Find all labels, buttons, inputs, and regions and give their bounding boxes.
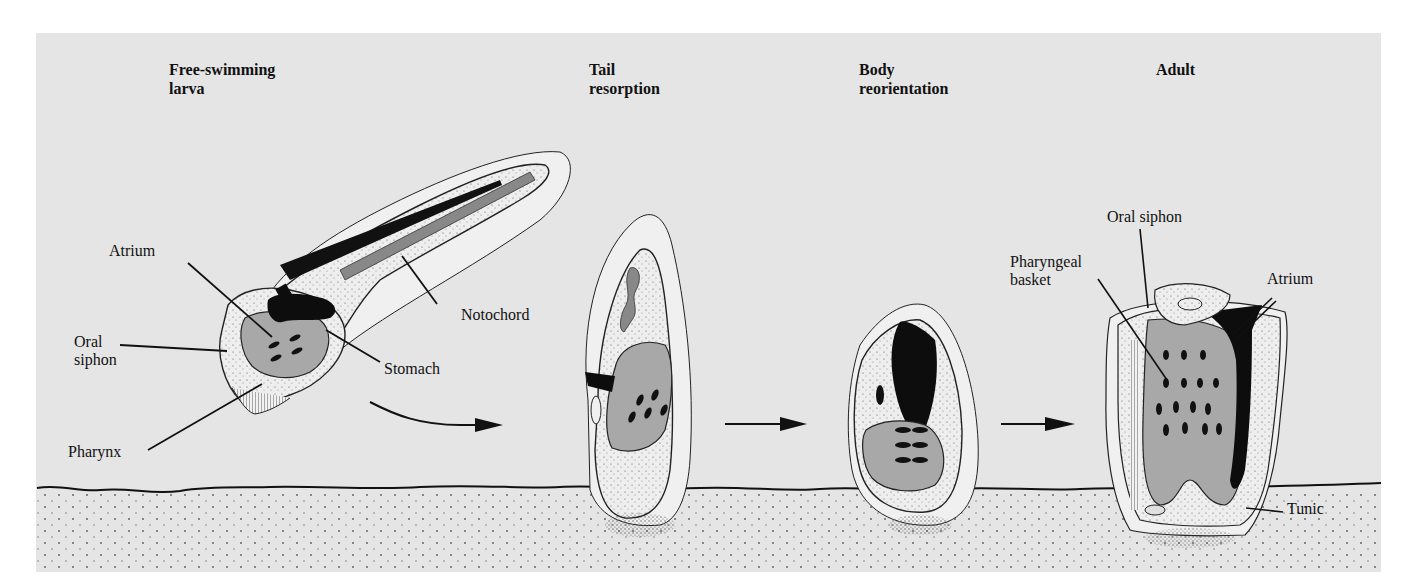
stage-title-line: Body xyxy=(859,60,948,79)
stage-title-line: reorientation xyxy=(859,79,948,98)
stage-title-larva: Free-swimming larva xyxy=(169,60,275,98)
arrow-3 xyxy=(1001,417,1075,431)
label-line: Pharyngeal xyxy=(1010,253,1082,271)
stage-title-adult: Adult xyxy=(1156,60,1195,79)
arrow-1 xyxy=(370,402,503,432)
tail-resorption-drawing xyxy=(585,215,691,537)
label-line: Oral xyxy=(74,333,117,351)
label-pharyngeal-basket: Pharyngeal basket xyxy=(1010,253,1082,289)
label-pharynx: Pharynx xyxy=(68,443,121,461)
adult-drawing xyxy=(1106,284,1287,548)
label-atrium-larva: Atrium xyxy=(109,242,155,260)
label-line: siphon xyxy=(74,351,117,369)
stage-title-line: Free-swimming xyxy=(169,60,275,79)
label-atrium-adult: Atrium xyxy=(1267,270,1313,288)
label-line: basket xyxy=(1010,271,1082,289)
stage-title-tail-resorption: Tail resorption xyxy=(589,60,660,98)
label-tunic: Tunic xyxy=(1287,500,1324,518)
body-reorientation-drawing xyxy=(848,304,978,535)
label-notochord: Notochord xyxy=(461,306,529,324)
label-stomach: Stomach xyxy=(384,360,440,378)
stage-title-line: resorption xyxy=(589,79,660,98)
label-oral-siphon-adult: Oral siphon xyxy=(1107,208,1182,226)
stage-title-line: Adult xyxy=(1156,60,1195,79)
stage-title-body-reorientation: Body reorientation xyxy=(859,60,948,98)
stage-title-line: larva xyxy=(169,79,275,98)
arrow-2 xyxy=(725,417,807,431)
label-oral-siphon-larva: Oral siphon xyxy=(74,333,117,369)
stage-title-line: Tail xyxy=(589,60,660,79)
